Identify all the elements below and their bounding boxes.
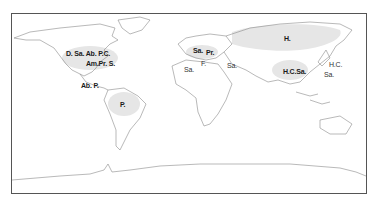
map-label-middle-east: Sa. — [227, 62, 237, 69]
map-label-north-america-2: Am.Pr. S. — [86, 60, 115, 67]
map-label-japan-1: H.C. — [329, 61, 342, 68]
map-label-china: H.C.Sa. — [283, 68, 306, 75]
map-label-italy: F. — [201, 60, 206, 67]
map-label-central-europe: Pr. — [206, 49, 214, 56]
map-label-north-africa: Sa. — [184, 66, 194, 73]
map-label-siberia: H. — [284, 35, 291, 42]
map-label-central-america: Ab. P. — [81, 82, 99, 89]
map-label-south-america: P. — [120, 101, 125, 108]
map-label-north-america-1: D. Sa. Ab. P.C. — [66, 50, 110, 57]
world-map — [0, 0, 378, 203]
map-label-western-europe: Sa. — [193, 47, 203, 54]
map-label-japan-2: Sa. — [324, 71, 334, 78]
